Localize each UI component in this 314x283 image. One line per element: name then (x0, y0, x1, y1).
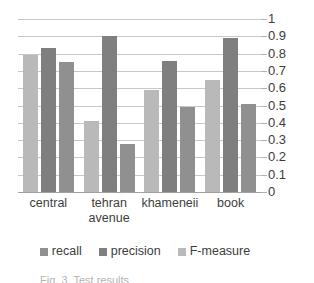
y-axis-tick (261, 192, 267, 193)
y-axis-label: 0.6 (268, 81, 286, 94)
bar (180, 107, 195, 192)
x-axis-label-line1: book (217, 196, 244, 210)
bar (102, 36, 117, 192)
y-axis-label: 0.8 (268, 47, 286, 60)
bar (120, 144, 135, 192)
y-axis-label: 0.7 (268, 64, 286, 77)
bar (205, 80, 220, 192)
bar (241, 104, 256, 192)
y-axis-label: 0.1 (268, 168, 286, 181)
y-axis-label: 0.9 (268, 29, 286, 42)
y-axis-tick (261, 54, 267, 55)
y-axis-tick (261, 106, 267, 107)
legend-item[interactable]: recall (40, 245, 82, 258)
y-axis-label: 0.2 (268, 150, 286, 163)
bar (84, 121, 99, 192)
x-axis-label-line2: avenue (79, 211, 140, 226)
x-axis-label-line1: tehran (91, 196, 126, 210)
bar (59, 62, 74, 192)
chart-legend: recallprecisionF-measure (0, 245, 290, 258)
y-axis-tick (261, 19, 267, 20)
bar (162, 61, 177, 192)
bar (144, 90, 159, 192)
y-axis-label: 0.3 (268, 133, 286, 146)
bar-chart-figure: 10.90.80.70.60.50.40.30.20.10 centralteh… (0, 0, 314, 283)
bar-group (79, 19, 140, 192)
y-axis-tick (261, 36, 267, 37)
bar-group (140, 19, 201, 192)
x-axis-label: khameneii (140, 196, 201, 226)
bar-group (18, 19, 79, 192)
y-axis-label: 0.4 (268, 116, 286, 129)
legend-label: precision (111, 245, 161, 258)
x-axis-label: central (18, 196, 79, 226)
y-axis-tick (261, 140, 267, 141)
y-axis-tick (261, 88, 267, 89)
y-axis-label: 0 (268, 185, 275, 198)
bar (223, 38, 238, 192)
legend-label: recall (52, 245, 82, 258)
y-axis-label: 0.5 (268, 99, 286, 112)
y-axis-tick (261, 175, 267, 176)
bar (23, 55, 38, 192)
x-axis-label: tehranavenue (79, 196, 140, 226)
gridline (18, 192, 261, 193)
legend-label: F-measure (190, 245, 250, 258)
legend-item[interactable]: F-measure (178, 245, 250, 258)
legend-swatch-icon (99, 248, 107, 256)
figure-caption: Fig. 3. Test results (40, 274, 270, 283)
x-axis-label-line1: khameneii (141, 196, 198, 210)
legend-swatch-icon (178, 248, 186, 256)
y-axis-tick (261, 71, 267, 72)
bar-groups (18, 19, 261, 192)
y-axis-tick (261, 157, 267, 158)
x-axis-label-line1: central (30, 196, 68, 210)
bar-group (200, 19, 261, 192)
legend-swatch-icon (40, 248, 48, 256)
y-axis-tick (261, 123, 267, 124)
x-axis-labels: centraltehranavenuekhameneiibook (18, 196, 261, 226)
x-axis-label: book (200, 196, 261, 226)
legend-item[interactable]: precision (99, 245, 161, 258)
bar (41, 48, 56, 192)
y-axis-label: 1 (268, 12, 275, 25)
y-axis-labels: 10.90.80.70.60.50.40.30.20.10 (268, 0, 312, 210)
plot-area (18, 19, 261, 192)
